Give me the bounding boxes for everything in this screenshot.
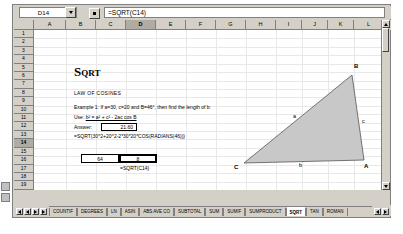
app-icon-2[interactable] [1, 193, 10, 202]
row-header-1[interactable]: 1 [14, 30, 34, 38]
scroll-left-icon[interactable] [374, 208, 381, 215]
formula-bar-separator [77, 6, 87, 19]
function-button[interactable] [89, 8, 100, 19]
sheet-tab-subtotal[interactable]: SUBTOTAL [174, 208, 205, 216]
cell-c14[interactable]: 64 [81, 154, 119, 163]
formula-input[interactable]: =SQRT(C14) [104, 7, 385, 18]
use-formula-line: Use: b² = a² + c² - 2ac cos B [74, 114, 137, 120]
column-header-l[interactable]: L [354, 20, 384, 30]
row-header-11[interactable]: 11 [14, 114, 34, 122]
sheet-tab-degrees[interactable]: DEGREES [77, 208, 107, 216]
column-header-e[interactable]: E [156, 20, 186, 30]
subtitle: LAW OF COSINES [74, 90, 121, 96]
tab-scroll-end [372, 208, 391, 216]
answer-label: Answer: [74, 124, 92, 130]
column-header-g[interactable]: G [216, 20, 246, 30]
row-header-17[interactable]: 17 [14, 165, 34, 173]
cell-d14-selected[interactable]: 8 [119, 154, 157, 163]
sheet-tab-sumproduct[interactable]: SUMPRODUCT [245, 208, 285, 216]
row-header-3[interactable]: 3 [14, 47, 34, 55]
column-header-j[interactable]: J [302, 20, 328, 30]
name-box[interactable]: D14 [19, 7, 77, 18]
row-header-16[interactable]: 16 [14, 156, 34, 164]
sheet-tab-roman[interactable]: ROMAN [323, 208, 348, 216]
app-icon-1[interactable] [1, 182, 10, 191]
nav-next-icon[interactable] [32, 208, 39, 215]
gridline-vertical [66, 30, 67, 190]
row-header-10[interactable]: 10 [14, 106, 34, 114]
name-box-value: D14 [20, 10, 65, 16]
big-formula-text: =SQRT(30^2+20^2-2*30*20*COS(RADIANS(46))… [74, 133, 185, 139]
row-header-5[interactable]: 5 [14, 64, 34, 72]
gridline-horizontal [34, 38, 384, 39]
row-header-7[interactable]: 7 [14, 80, 34, 88]
spreadsheet-screenshot: D14 =SQRT(C14) ABCDEFGHIJKL 123456789101… [0, 0, 403, 234]
nav-prev-icon[interactable] [24, 208, 31, 215]
row-header-14[interactable]: 14 [14, 139, 34, 147]
example-text: Example 1: If a=30, c=20 and B=46°, then… [74, 104, 211, 110]
answer-row: Answer: 21.60 [74, 123, 137, 131]
sheet-tab-sumif[interactable]: SUMIF [223, 208, 245, 216]
column-header-d[interactable]: D [126, 20, 156, 30]
select-all-corner[interactable] [14, 20, 34, 30]
sheet-tabs: COUNTIFDEGREESLNASINABS AVE COSUBTOTALSU… [49, 206, 372, 216]
tab-nav-buttons [14, 208, 49, 216]
vertical-scrollbar[interactable] [381, 20, 389, 190]
vertex-label-b: B [354, 63, 358, 69]
gridline-vertical [96, 30, 97, 190]
side-label-c: c [362, 118, 365, 124]
sheet-tab-asin[interactable]: ASIN [121, 208, 140, 216]
column-header-i[interactable]: I [276, 20, 302, 30]
row-header-4[interactable]: 4 [14, 55, 34, 63]
row-header-13[interactable]: 13 [14, 131, 34, 139]
spreadsheet-window: D14 =SQRT(C14) ABCDEFGHIJKL 123456789101… [12, 4, 391, 218]
side-label-b: b [299, 162, 302, 168]
sheet-tab-countif[interactable]: COUNTIF [49, 208, 77, 216]
scroll-down-icon[interactable] [382, 182, 390, 190]
row-header-19[interactable]: 19 [14, 181, 34, 189]
gridline-horizontal [34, 47, 384, 48]
nav-first-icon[interactable] [16, 208, 23, 215]
triangle-svg [230, 50, 380, 190]
column-header-row: ABCDEFGHIJKL [14, 20, 391, 30]
gridline-vertical [186, 30, 187, 190]
cell-formula-note: =SQRT(C14) [120, 165, 149, 171]
cell-pair: 64 8 [81, 154, 157, 163]
triangle-figure: B C A a b c [230, 50, 380, 190]
chevron-down-icon[interactable] [65, 7, 76, 18]
nav-last-icon[interactable] [40, 208, 47, 215]
row-header-18[interactable]: 18 [14, 173, 34, 181]
column-header-a[interactable]: A [34, 20, 66, 30]
vertex-label-a: A [364, 163, 368, 169]
sheet-tab-tan[interactable]: TAN [306, 208, 323, 216]
row-header-6[interactable]: 6 [14, 72, 34, 80]
column-header-b[interactable]: B [66, 20, 96, 30]
column-header-f[interactable]: F [186, 20, 216, 30]
row-header-8[interactable]: 8 [14, 89, 34, 97]
sheet-tab-bar: COUNTIFDEGREESLNASINABS AVE COSUBTOTALSU… [14, 205, 391, 216]
column-header-k[interactable]: K [328, 20, 354, 30]
formula-bar: D14 =SQRT(C14) [14, 6, 391, 19]
sheet-canvas[interactable]: SQRT LAW OF COSINES Example 1: If a=30, … [34, 30, 384, 190]
vertical-scroll-thumb[interactable] [382, 28, 389, 52]
gridline-vertical [156, 30, 157, 190]
row-header-2[interactable]: 2 [14, 38, 34, 46]
scroll-up-icon[interactable] [382, 20, 390, 28]
row-header-15[interactable]: 15 [14, 148, 34, 156]
row-header-12[interactable]: 12 [14, 122, 34, 130]
row-header-column: 12345678910111213141516171819 [14, 30, 34, 190]
sheet-tab-sum[interactable]: SUM [205, 208, 223, 216]
page-title: SQRT [74, 65, 100, 80]
sheet-tab-abs-ave-co[interactable]: ABS AVE CO [139, 208, 174, 216]
sheet-tab-sqrt[interactable]: SQRT [286, 207, 307, 216]
column-header-c[interactable]: C [96, 20, 126, 30]
use-formula: b² = a² + c² - 2ac cos B [86, 114, 137, 120]
vertex-label-c: C [234, 164, 238, 170]
sheet-tab-ln[interactable]: LN [107, 208, 121, 216]
scroll-right-icon[interactable] [382, 208, 389, 215]
left-icon-strip [1, 182, 11, 202]
answer-value-cell[interactable]: 21.60 [101, 123, 137, 131]
column-header-h[interactable]: H [246, 20, 276, 30]
side-label-a: a [293, 113, 296, 119]
row-header-9[interactable]: 9 [14, 97, 34, 105]
